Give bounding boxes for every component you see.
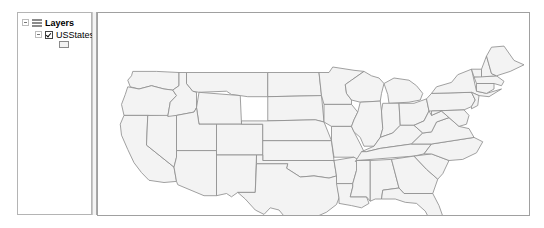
- state-mi[interactable]: [384, 78, 423, 103]
- toc-root-row[interactable]: Layers: [22, 17, 74, 28]
- state-az[interactable]: [174, 151, 217, 196]
- toc-layer-row[interactable]: USStates: [35, 29, 94, 40]
- state-wy[interactable]: [197, 92, 242, 124]
- collapse-icon[interactable]: [35, 31, 42, 38]
- map-view[interactable]: [97, 12, 530, 216]
- state-co[interactable]: [217, 124, 263, 155]
- state-nm[interactable]: [217, 155, 257, 197]
- layer-name: USStates: [56, 30, 94, 40]
- toc-root-label: Layers: [45, 18, 74, 28]
- us-states-map[interactable]: [98, 13, 530, 216]
- state-pa[interactable]: [427, 92, 476, 111]
- collapse-icon[interactable]: [22, 19, 29, 26]
- state-ks[interactable]: [263, 141, 334, 161]
- state-me[interactable]: [487, 46, 525, 76]
- state-nd[interactable]: [268, 73, 322, 97]
- layer-symbol-swatch[interactable]: [59, 41, 69, 48]
- layers-icon: [32, 19, 42, 27]
- table-of-contents-panel: Layers USStates: [17, 12, 92, 215]
- state-sd[interactable]: [268, 96, 324, 122]
- layer-visibility-checkbox[interactable]: [45, 31, 53, 39]
